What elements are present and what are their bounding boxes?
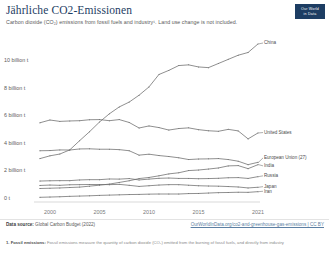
- series-point: [99, 195, 100, 196]
- series-point: [59, 187, 60, 188]
- series-point: [129, 122, 130, 123]
- series-point: [40, 197, 41, 198]
- series-point: [89, 148, 90, 149]
- series-point: [40, 150, 41, 151]
- footnote: 1. Fossil emissions: Fossil emissions me…: [6, 240, 284, 245]
- series-label-iran[interactable]: Iran: [264, 189, 272, 194]
- footnote-label: 1. Fossil emissions:: [6, 240, 46, 245]
- series-point: [99, 184, 100, 185]
- series-point: [89, 195, 90, 196]
- series-point: [69, 196, 70, 197]
- series-label-connector: [259, 176, 264, 177]
- series-label-russia[interactable]: Russia: [264, 173, 278, 178]
- series-point: [248, 187, 249, 188]
- series-point: [208, 158, 209, 159]
- y-axis-tick-label: 8 billion t: [4, 85, 26, 91]
- series-point: [228, 177, 229, 178]
- series-point: [238, 165, 239, 166]
- y-axis-tick-label: 10 billion t: [4, 57, 29, 63]
- series-point: [248, 192, 249, 193]
- series-point: [69, 150, 70, 151]
- series-point: [168, 173, 169, 174]
- series-point: [178, 157, 179, 158]
- series-point: [158, 185, 159, 186]
- series-line-united-states[interactable]: [40, 120, 258, 139]
- y-axis-tick-label: 6 billion t: [4, 112, 26, 118]
- series-point: [40, 188, 41, 189]
- series-point: [109, 178, 110, 179]
- series-point: [109, 195, 110, 196]
- series-point: [119, 106, 120, 107]
- series-point: [178, 65, 179, 66]
- series-point: [228, 159, 229, 160]
- series-point: [198, 159, 199, 160]
- series-label-china[interactable]: China: [264, 40, 276, 45]
- x-axis-tick-label: 2005: [93, 209, 105, 215]
- series-point: [208, 178, 209, 179]
- series-point: [149, 185, 150, 186]
- series-point: [218, 63, 219, 64]
- series-point: [49, 120, 50, 121]
- series-point: [69, 120, 70, 121]
- series-point: [99, 119, 100, 120]
- series-point: [248, 52, 249, 53]
- series-point: [188, 178, 189, 179]
- series-point: [49, 185, 50, 186]
- series-point: [198, 170, 199, 171]
- series-point: [139, 186, 140, 187]
- series-point: [79, 120, 80, 121]
- badge-line-2: in Data: [295, 12, 325, 17]
- series-line-china[interactable]: [40, 44, 258, 159]
- y-axis-tick-label: 4 billion t: [4, 140, 26, 146]
- series-point: [208, 186, 209, 187]
- series-point: [79, 179, 80, 180]
- x-axis-tick-label: 2021: [252, 209, 264, 215]
- series-point: [198, 178, 199, 179]
- series-label-united-states[interactable]: United States: [264, 130, 292, 135]
- series-point: [119, 119, 120, 120]
- series-point: [79, 140, 80, 141]
- series-point: [89, 179, 90, 180]
- footer-divider: [0, 219, 329, 220]
- series-point: [218, 186, 219, 187]
- x-axis-tick-label: 2010: [143, 209, 155, 215]
- series-point: [49, 197, 50, 198]
- series-label-european-union-27-[interactable]: European Union (27): [264, 155, 307, 160]
- series-point: [198, 193, 199, 194]
- data-source-label: Data source:: [6, 222, 34, 227]
- series-point: [258, 132, 259, 133]
- series-point: [158, 74, 159, 75]
- series-label-connector: [259, 165, 264, 166]
- series-point: [218, 158, 219, 159]
- series-point: [79, 148, 80, 149]
- series-label-india[interactable]: India: [264, 163, 274, 168]
- footnote-text: Fossil emissions measure the quantity of…: [47, 240, 284, 245]
- series-point: [99, 149, 100, 150]
- series-point: [168, 178, 169, 179]
- series-point: [149, 177, 150, 178]
- series-line-european-union-27-[interactable]: [40, 149, 258, 165]
- series-point: [129, 180, 130, 181]
- series-point: [40, 122, 41, 123]
- line-chart-svg: 0 t2 billion t4 billion t6 billion t8 bi…: [0, 30, 329, 215]
- series-point: [188, 64, 189, 65]
- series-point: [168, 156, 169, 157]
- series-point: [208, 130, 209, 131]
- series-point: [258, 162, 259, 163]
- series-point: [238, 130, 239, 131]
- series-point: [89, 186, 90, 187]
- series-point: [178, 172, 179, 173]
- series-point: [59, 185, 60, 186]
- series-point: [238, 161, 239, 162]
- series-point: [79, 187, 80, 188]
- y-axis-tick-label: 2 billion t: [4, 167, 26, 173]
- series-point: [49, 150, 50, 151]
- series-point: [129, 185, 130, 186]
- owid-source-link[interactable]: OurWorldInData.org/co2-and-greenhouse-ga…: [191, 222, 324, 227]
- series-point: [238, 177, 239, 178]
- owid-logo-badge[interactable]: Our World in Data: [295, 4, 325, 19]
- series-point: [129, 150, 130, 151]
- series-point: [228, 192, 229, 193]
- series-point: [139, 155, 140, 156]
- series-point: [119, 149, 120, 150]
